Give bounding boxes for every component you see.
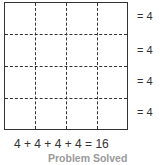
sum-equation: 4 + 4 + 4 + 4 = 16 bbox=[14, 137, 109, 151]
row-sum-label: = 4 bbox=[137, 10, 153, 22]
caption: Problem Solved bbox=[48, 152, 127, 164]
horizontal-divider bbox=[5, 66, 127, 67]
row-sum-label: = 4 bbox=[137, 106, 153, 118]
row-sum-label: = 4 bbox=[137, 75, 153, 87]
row-sum-label: = 4 bbox=[137, 44, 153, 56]
grid-square bbox=[4, 2, 128, 130]
horizontal-divider bbox=[5, 34, 127, 35]
horizontal-divider bbox=[5, 98, 127, 99]
